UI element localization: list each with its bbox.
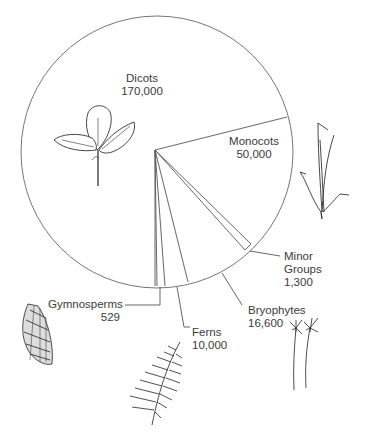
- label-gymnosperms-value: 529: [48, 311, 120, 324]
- leader-bryophytes: [222, 273, 242, 305]
- monocot-grass-icon: [300, 123, 349, 219]
- boundary-minor-a: [155, 150, 251, 244]
- pie-chart: [0, 0, 365, 439]
- fern-frond-icon: [130, 342, 182, 425]
- label-bryophytes: Bryophytes 16,600: [248, 304, 306, 330]
- label-gymnosperms-name: Gymnosperms: [48, 298, 120, 311]
- label-monocots-name: Monocots: [224, 135, 284, 148]
- label-bryophytes-value: 16,600: [248, 317, 306, 330]
- label-minor-line1: Minor: [284, 250, 322, 263]
- label-ferns-value: 10,000: [192, 339, 227, 352]
- label-gymnosperms: Gymnosperms 529: [48, 298, 120, 324]
- label-ferns: Ferns 10,000: [192, 326, 227, 352]
- leader-minor-groups: [250, 251, 280, 256]
- label-minor-line2: Groups: [284, 263, 322, 276]
- label-dicots-name: Dicots: [112, 72, 172, 85]
- label-dicots-value: 170,000: [112, 85, 172, 98]
- leader-ferns: [177, 287, 190, 327]
- label-ferns-name: Ferns: [192, 326, 227, 339]
- dicot-leaf-sprig-icon: [54, 106, 135, 186]
- label-monocots: Monocots 50,000: [224, 135, 284, 161]
- label-monocots-value: 50,000: [224, 148, 284, 161]
- boundary-minor-b: [155, 150, 245, 250]
- label-bryophytes-name: Bryophytes: [248, 304, 306, 317]
- label-dicots: Dicots 170,000: [112, 72, 172, 98]
- boundary-minor-cap: [245, 244, 251, 250]
- label-minor-value: 1,300: [284, 276, 322, 289]
- leader-gymnosperms: [125, 287, 160, 305]
- label-minor-groups: Minor Groups 1,300: [284, 250, 322, 289]
